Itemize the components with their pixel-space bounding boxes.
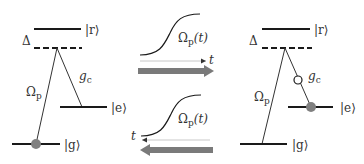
reverse-direction-arrow — [140, 144, 213, 156]
state-e-label: |e⟩ — [111, 101, 127, 115]
left-level-scheme: |r⟩ Δ Ωp gc |e⟩ |g⟩ — [12, 23, 127, 152]
pulse-label-reverse: Ωp(t) — [178, 112, 208, 128]
probe-label: Ωp — [26, 85, 42, 101]
time-axis-label-forward: t — [209, 53, 214, 67]
population-dot-g — [31, 139, 41, 149]
state-g-label: |g⟩ — [64, 138, 80, 152]
coupling-label-right: gc — [308, 69, 321, 85]
level-diagram: |r⟩ Δ Ωp gc |e⟩ |g⟩ Ωp(t) t Ωp(t) t — [0, 0, 364, 164]
state-g-label-right: |g⟩ — [292, 138, 308, 152]
time-axis-label-reverse: t — [131, 129, 136, 143]
detuning-label: Δ — [22, 34, 31, 48]
probe-label-right: Ωp — [254, 90, 270, 106]
reverse-pulse-panel: Ωp(t) t — [131, 95, 213, 156]
forward-pulse-panel: Ωp(t) t — [138, 14, 214, 77]
pulse-curve-forward — [140, 14, 200, 55]
pulse-label-forward: Ωp(t) — [178, 31, 208, 47]
state-e-label-right: |e⟩ — [340, 101, 356, 115]
empty-state-circle — [294, 76, 302, 84]
pulse-curve-reverse — [141, 95, 201, 136]
forward-direction-arrow — [138, 65, 214, 77]
population-dot-e — [306, 102, 316, 112]
state-r-label-right: |r⟩ — [314, 23, 328, 37]
state-r-label: |r⟩ — [85, 23, 99, 37]
detuning-label-right: Δ — [249, 34, 258, 48]
coupling-label: gc — [79, 69, 92, 85]
right-level-scheme: |r⟩ Δ Ωp gc |e⟩ |g⟩ — [240, 23, 356, 152]
